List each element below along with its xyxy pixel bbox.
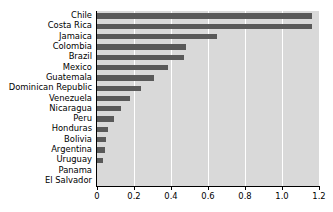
bar-honduras	[97, 127, 108, 132]
x-tick-label-0.8: 0.8	[230, 191, 260, 201]
x-tick-label-0.2: 0.2	[119, 191, 149, 201]
x-tick-mark-1.0	[282, 187, 283, 190]
y-tick-label-costa-rica: Costa Rica	[0, 21, 92, 30]
bar-row	[97, 96, 319, 101]
bar-jamaica	[97, 34, 217, 39]
bar-brazil	[97, 55, 184, 60]
y-axis-tick-labels: ChileCosta RicaJamaicaColombiaBrazilMexi…	[0, 11, 92, 186]
bar-guatemala	[97, 75, 154, 80]
x-tick-mark-0.4	[171, 187, 172, 190]
x-tick-label-0.4: 0.4	[156, 191, 186, 201]
bar-row	[97, 75, 319, 80]
x-tick-mark-1.2	[319, 187, 320, 190]
x-tick-label-1.0: 1.0	[267, 191, 297, 201]
y-tick-label-argentina: Argentina	[0, 145, 92, 154]
y-tick-label-brazil: Brazil	[0, 52, 92, 61]
bar-bolivia	[97, 137, 106, 142]
x-tick-label-0: 0	[82, 191, 112, 201]
bar-chile	[97, 13, 312, 18]
bar-row	[97, 137, 319, 142]
y-tick-label-jamaica: Jamaica	[0, 32, 92, 41]
x-tick-mark-0.6	[208, 187, 209, 190]
bar-row	[97, 86, 319, 91]
bar-uruguay	[97, 158, 103, 163]
plot-area	[97, 11, 319, 186]
bar-chart-figure: ChileCosta RicaJamaicaColombiaBrazilMexi…	[0, 0, 333, 212]
y-tick-label-chile: Chile	[0, 11, 92, 20]
bar-row	[97, 13, 319, 18]
y-tick-label-mexico: Mexico	[0, 63, 92, 72]
bar-row	[97, 44, 319, 49]
y-tick-label-panama: Panama	[0, 166, 92, 175]
x-tick-mark-0.2	[134, 187, 135, 190]
bar-row	[97, 34, 319, 39]
y-tick-label-colombia: Colombia	[0, 42, 92, 51]
y-tick-label-uruguay: Uruguay	[0, 155, 92, 164]
y-tick-label-venezuela: Venezuela	[0, 94, 92, 103]
bar-mexico	[97, 65, 168, 70]
x-tick-label-1.2: 1.2	[304, 191, 333, 201]
bar-row	[97, 106, 319, 111]
bar-venezuela	[97, 96, 130, 101]
y-tick-label-honduras: Honduras	[0, 124, 92, 133]
bar-row	[97, 24, 319, 29]
y-tick-label-guatemala: Guatemala	[0, 73, 92, 82]
bar-row	[97, 65, 319, 70]
bar-row	[97, 127, 319, 132]
bar-costa-rica	[97, 24, 312, 29]
y-tick-label-el-salvador: El Salvador	[0, 176, 92, 185]
bar-row	[97, 116, 319, 121]
x-tick-mark-0	[97, 187, 98, 190]
bar-peru	[97, 116, 114, 121]
x-tick-label-0.6: 0.6	[193, 191, 223, 201]
bar-colombia	[97, 44, 186, 49]
y-tick-label-bolivia: Bolivia	[0, 135, 92, 144]
y-tick-label-nicaragua: Nicaragua	[0, 104, 92, 113]
y-axis-line	[96, 11, 97, 187]
bar-row	[97, 55, 319, 60]
x-tick-mark-0.8	[245, 187, 246, 190]
bar-row	[97, 158, 319, 163]
bars-layer	[97, 11, 319, 186]
bar-row	[97, 178, 319, 183]
bar-row	[97, 168, 319, 173]
bar-nicaragua	[97, 106, 121, 111]
bar-argentina	[97, 147, 105, 152]
y-tick-label-peru: Peru	[0, 114, 92, 123]
bar-dominican-republic	[97, 86, 141, 91]
bar-row	[97, 147, 319, 152]
y-tick-label-dominican-republic: Dominican Republic	[0, 83, 92, 92]
